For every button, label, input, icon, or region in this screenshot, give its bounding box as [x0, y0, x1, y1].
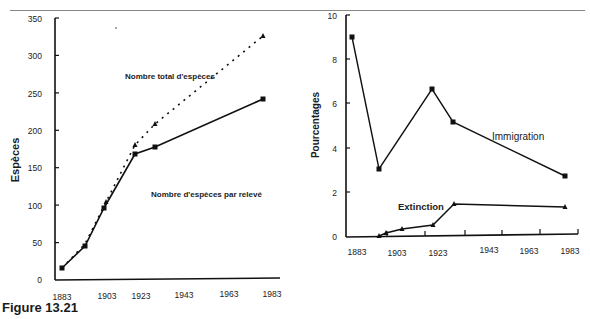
left-y-axis-title: Espèces: [9, 138, 21, 183]
svg-text:1903: 1903: [388, 248, 407, 258]
svg-text:250: 250: [28, 89, 42, 99]
svg-text:1983: 1983: [263, 289, 282, 299]
svg-text:1883: 1883: [348, 247, 367, 257]
svg-text:1943: 1943: [175, 290, 194, 300]
svg-text:200: 200: [28, 126, 42, 136]
right-y-tick-labels: 10 8 6 4 2 0: [328, 11, 338, 242]
left-chart: 350 300 250 200 150 100 50 0 1883 1903 1…: [9, 14, 282, 302]
svg-text:6: 6: [332, 99, 337, 109]
svg-text:1943: 1943: [480, 245, 499, 255]
series-per-releve-markers: [60, 97, 266, 271]
right-y-axis-title: Pourcentages: [310, 91, 321, 158]
svg-text:0: 0: [332, 232, 337, 242]
right-x-tick-labels: 1883 1903 1923 1943 1963 1983: [348, 245, 580, 258]
svg-text:50: 50: [33, 238, 43, 248]
label-extinction: Extinction: [398, 201, 444, 212]
label-immigration: Immigration: [492, 131, 544, 142]
svg-text:350: 350: [28, 14, 42, 24]
svg-text:100: 100: [28, 201, 42, 211]
svg-text:1963: 1963: [520, 246, 539, 256]
figure-canvas: 350 300 250 200 150 100 50 0 1883 1903 1…: [0, 0, 590, 319]
svg-text:1923: 1923: [429, 248, 448, 258]
svg-text:300: 300: [28, 51, 42, 61]
speck: [115, 27, 117, 29]
label-total-species: Nombre total d'espèces: [125, 72, 215, 81]
series-total-markers: [104, 33, 266, 204]
figure-caption: Figure 13.21: [2, 300, 78, 315]
series-immigration-markers: [350, 35, 568, 179]
series-species-per-releve: [62, 99, 263, 268]
right-chart: 10 8 6 4 2 0 1883 1903 1923 1943 1963 19…: [310, 11, 580, 258]
svg-text:0: 0: [37, 275, 42, 285]
svg-text:1963: 1963: [220, 289, 239, 299]
svg-text:4: 4: [332, 144, 337, 154]
svg-text:1903: 1903: [98, 291, 117, 301]
left-x-tick-labels: 1883 1903 1923 1943 1963 1983: [53, 289, 282, 302]
svg-text:1923: 1923: [132, 291, 151, 301]
svg-text:2: 2: [332, 188, 337, 198]
label-species-per-releve: Nombre d'espèces par relevé: [151, 190, 262, 199]
svg-text:1983: 1983: [561, 246, 580, 256]
svg-text:8: 8: [332, 55, 337, 65]
svg-text:150: 150: [28, 163, 42, 173]
svg-text:10: 10: [328, 11, 338, 21]
series-immigration: [352, 37, 565, 176]
left-y-tick-labels: 350 300 250 200 150 100 50 0: [28, 14, 42, 285]
left-x-axis: [55, 278, 280, 280]
